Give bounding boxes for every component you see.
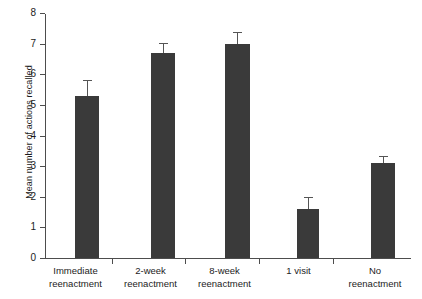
error-cap-immediate-reenactment bbox=[83, 80, 92, 81]
bar-immediate-reenactment bbox=[75, 96, 99, 258]
bar-8-week-reenactment bbox=[225, 44, 250, 258]
y-tick-7: 7 bbox=[40, 44, 45, 45]
y-tick-label-3: 3 bbox=[30, 159, 36, 172]
error-cap-no-reenactment bbox=[379, 156, 388, 157]
y-axis-line bbox=[45, 14, 46, 259]
bar-chart: Mean number of actions recalled 0 1 2 3 … bbox=[0, 0, 422, 299]
bar-1-visit bbox=[297, 209, 319, 258]
error-bar-2-week-reenactment bbox=[163, 44, 164, 53]
y-tick-0: 0 bbox=[40, 258, 45, 259]
y-tick-label-2: 2 bbox=[30, 190, 36, 203]
y-tick-label-6: 6 bbox=[30, 67, 36, 80]
y-tick-1: 1 bbox=[40, 227, 45, 228]
error-bar-immediate-reenactment bbox=[87, 81, 88, 96]
bar-2-week-reenactment bbox=[151, 53, 175, 258]
y-tick-label-0: 0 bbox=[30, 251, 36, 264]
bar-no-reenactment bbox=[371, 163, 395, 258]
error-bar-8-week-reenactment bbox=[237, 33, 238, 44]
y-tick-label-8: 8 bbox=[30, 6, 36, 19]
y-tick-6: 6 bbox=[40, 74, 45, 75]
y-tick-label-7: 7 bbox=[30, 37, 36, 50]
x-tick-boundary-1 bbox=[112, 259, 113, 264]
y-tick-label-4: 4 bbox=[30, 129, 36, 142]
x-label-1-visit: 1 visit bbox=[262, 264, 335, 277]
error-bar-1-visit bbox=[308, 198, 309, 209]
error-cap-1-visit bbox=[304, 197, 313, 198]
error-bar-no-reenactment bbox=[383, 157, 384, 163]
x-label-8-week-reenactment: 8-week reenactment bbox=[188, 264, 261, 290]
y-tick-5: 5 bbox=[40, 105, 45, 106]
error-cap-2-week-reenactment bbox=[159, 43, 168, 44]
y-tick-label-5: 5 bbox=[30, 98, 36, 111]
y-tick-label-1: 1 bbox=[30, 220, 36, 233]
x-axis-line bbox=[45, 258, 411, 259]
error-cap-8-week-reenactment bbox=[233, 32, 242, 33]
plot-area: 0 1 2 3 4 5 6 7 8 bbox=[45, 14, 411, 259]
x-label-no-reenactment: No reenactment bbox=[336, 264, 414, 290]
x-label-immediate-reenactment: Immediate reenactment bbox=[39, 264, 112, 290]
y-tick-4: 4 bbox=[40, 136, 45, 137]
y-tick-2: 2 bbox=[40, 197, 45, 198]
y-tick-8: 8 bbox=[40, 13, 45, 14]
y-tick-3: 3 bbox=[40, 166, 45, 167]
x-label-2-week-reenactment: 2-week reenactment bbox=[114, 264, 187, 290]
